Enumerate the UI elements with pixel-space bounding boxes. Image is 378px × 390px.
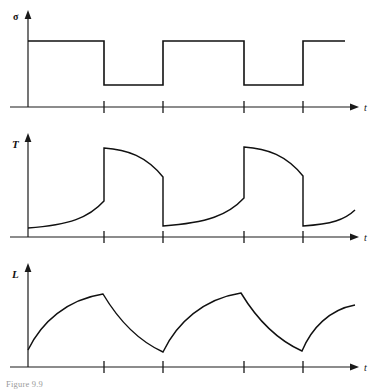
sigma-x-axis-arrowhead	[350, 104, 359, 111]
temperature-panel: T t	[10, 133, 367, 243]
sigma-panel: σ t	[10, 10, 367, 113]
length-waveform	[28, 293, 355, 352]
sigma-y-axis-arrowhead	[25, 10, 32, 19]
figure-caption: Figure 9.9	[6, 379, 43, 390]
temperature-y-axis-arrowhead	[25, 133, 32, 142]
length-x-axis-label: t	[364, 362, 367, 373]
figure-container: σ t T t L t	[0, 0, 378, 390]
thermoelastic-plot-svg: σ t T t L t	[0, 0, 378, 390]
temperature-waveform	[28, 147, 355, 228]
sigma-axis-label: σ	[13, 11, 19, 22]
length-y-axis-arrowhead	[25, 263, 32, 272]
length-panel: L t	[10, 263, 367, 373]
length-axis-label: L	[11, 268, 19, 280]
temperature-x-axis-label: t	[364, 232, 367, 243]
temperature-x-axis-arrowhead	[350, 234, 359, 241]
sigma-waveform	[28, 41, 345, 85]
temperature-axis-label: T	[12, 138, 20, 150]
length-x-axis-arrowhead	[350, 364, 359, 371]
sigma-x-axis-label: t	[364, 102, 367, 113]
